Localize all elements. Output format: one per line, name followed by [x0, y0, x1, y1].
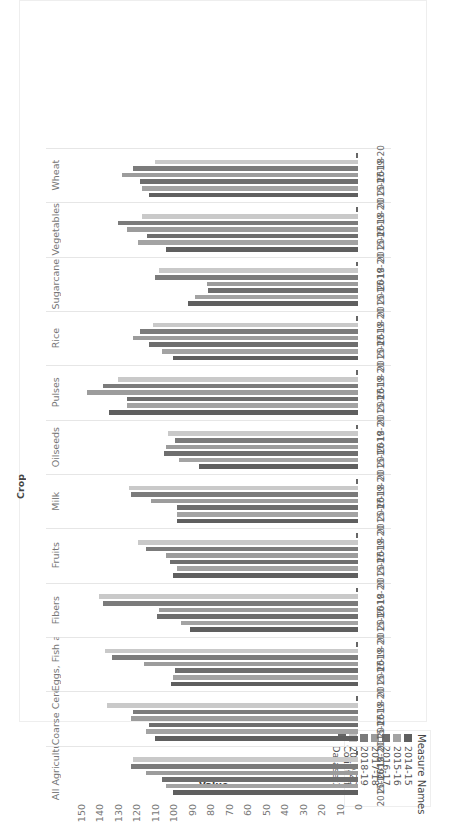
- bar[interactable]: [87, 390, 358, 395]
- bar[interactable]: [188, 301, 358, 306]
- bar[interactable]: [166, 784, 358, 789]
- bar[interactable]: [149, 723, 358, 728]
- bar[interactable]: [151, 499, 358, 504]
- bar[interactable]: [175, 668, 358, 673]
- bar[interactable]: [177, 512, 358, 517]
- bar[interactable]: [162, 777, 358, 782]
- bar[interactable]: [147, 234, 358, 239]
- group-separator: [46, 420, 391, 421]
- bar[interactable]: [356, 751, 358, 756]
- bar[interactable]: [138, 540, 358, 545]
- bar[interactable]: [127, 403, 358, 408]
- bar[interactable]: [107, 703, 358, 708]
- bar[interactable]: [199, 464, 358, 469]
- bar[interactable]: [155, 160, 358, 165]
- crop-label: Fruits: [50, 528, 61, 582]
- bar[interactable]: [133, 710, 358, 715]
- bar[interactable]: [164, 451, 358, 456]
- y-tick-label: 60: [242, 804, 253, 816]
- legend-item[interactable]: 2014-15: [403, 734, 414, 823]
- bar[interactable]: [168, 431, 358, 436]
- bar[interactable]: [177, 519, 358, 524]
- bar[interactable]: [122, 173, 358, 178]
- bar[interactable]: [146, 547, 358, 552]
- bar[interactable]: [146, 729, 358, 734]
- legend-item[interactable]: 2015-16: [392, 734, 403, 823]
- bar[interactable]: [356, 207, 358, 212]
- bar[interactable]: [153, 323, 358, 328]
- bar[interactable]: [138, 240, 358, 245]
- bar[interactable]: [208, 288, 358, 293]
- bar[interactable]: [133, 757, 358, 762]
- bar[interactable]: [356, 425, 358, 430]
- bar[interactable]: [356, 533, 358, 538]
- bar[interactable]: [356, 696, 358, 701]
- bar[interactable]: [356, 479, 358, 484]
- bar[interactable]: [127, 397, 358, 402]
- bar[interactable]: [149, 193, 358, 198]
- crop-label: Fibers: [50, 583, 61, 637]
- bar[interactable]: [173, 573, 358, 578]
- y-tick-label: 30: [298, 804, 309, 816]
- bar[interactable]: [103, 601, 358, 606]
- bar[interactable]: [149, 342, 358, 347]
- bar[interactable]: [142, 186, 358, 191]
- bar[interactable]: [157, 614, 358, 619]
- legend-title: Measure Names: [416, 734, 427, 823]
- bar[interactable]: [162, 349, 358, 354]
- bar[interactable]: [356, 370, 358, 375]
- bar[interactable]: [131, 716, 358, 721]
- bar[interactable]: [159, 608, 358, 613]
- bar[interactable]: [142, 214, 358, 219]
- bar[interactable]: [118, 377, 358, 382]
- bar[interactable]: [177, 566, 358, 571]
- bar[interactable]: [175, 438, 358, 443]
- crop-label: All Agriculture: [50, 746, 61, 800]
- bar[interactable]: [181, 621, 358, 626]
- bar[interactable]: [112, 655, 358, 660]
- bar[interactable]: [129, 486, 358, 491]
- bar[interactable]: [172, 682, 359, 687]
- bar[interactable]: [356, 588, 358, 593]
- bar[interactable]: [140, 179, 358, 184]
- bar[interactable]: [177, 505, 358, 510]
- bar[interactable]: [133, 336, 358, 341]
- bar[interactable]: [131, 764, 358, 769]
- bar[interactable]: [155, 275, 358, 280]
- bar[interactable]: [356, 153, 358, 158]
- y-tick-label: 100: [168, 804, 179, 822]
- bar[interactable]: [155, 736, 358, 741]
- bar[interactable]: [170, 560, 358, 565]
- bar[interactable]: [356, 642, 358, 647]
- bar[interactable]: [173, 356, 358, 361]
- bar[interactable]: [144, 662, 358, 667]
- bar[interactable]: [99, 594, 358, 599]
- crop-label: Eggs, Fish an..: [50, 637, 61, 691]
- bar[interactable]: [159, 268, 358, 273]
- bar[interactable]: [173, 675, 358, 680]
- bar[interactable]: [127, 227, 358, 232]
- bar[interactable]: [356, 262, 358, 267]
- y-tick-label: 120: [131, 804, 142, 822]
- bar[interactable]: [166, 553, 358, 558]
- bar[interactable]: [166, 445, 358, 450]
- bar[interactable]: [103, 384, 358, 389]
- bar[interactable]: [109, 410, 358, 415]
- group-separator: [46, 528, 391, 529]
- bar[interactable]: [140, 329, 358, 334]
- bar[interactable]: [179, 458, 358, 463]
- y-tick-label: 150: [76, 804, 87, 822]
- bar[interactable]: [190, 627, 358, 632]
- bar[interactable]: [131, 492, 358, 497]
- crop-label: Vegetables: [50, 202, 61, 256]
- bar[interactable]: [173, 790, 358, 795]
- bar[interactable]: [207, 282, 358, 287]
- bar[interactable]: [133, 166, 358, 171]
- bar[interactable]: [105, 649, 358, 654]
- bar[interactable]: [356, 316, 358, 321]
- bar[interactable]: [146, 771, 358, 776]
- bar[interactable]: [166, 247, 358, 252]
- bar[interactable]: [118, 221, 358, 226]
- group-separator: [46, 691, 391, 692]
- bar[interactable]: [196, 295, 359, 300]
